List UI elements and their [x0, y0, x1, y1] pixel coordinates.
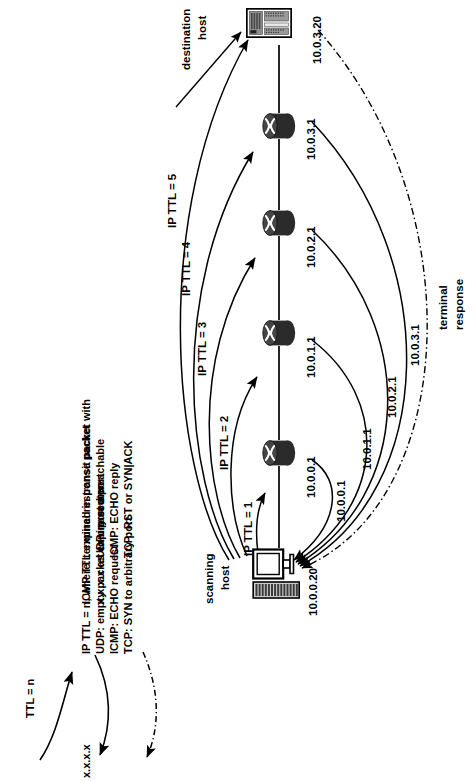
scanning-host-label-line1: scanning: [203, 554, 217, 604]
router-node-10-0-0-1[interactable]: [262, 440, 296, 470]
response-label-10-0-2-1: 10.0.2.1: [386, 376, 400, 418]
legend-terminal-line-2: UDP: port unreachable: [94, 439, 107, 558]
terminal-response-label-line2: response: [453, 279, 467, 330]
router-ip-label-10-0-1-1: 10.0.1.1: [305, 336, 319, 378]
destination-host-node[interactable]: [246, 8, 292, 42]
scanning-host-node[interactable]: [252, 546, 312, 604]
legend-terminal-line-4: TCP: RST or SYN|ACK: [122, 441, 135, 558]
router-icon: [262, 113, 296, 139]
router-ip-label-10-0-2-1: 10.0.2.1: [305, 226, 319, 268]
router-icon: [262, 320, 296, 346]
router-ip-label-10-0-3-1: 10.0.3.1: [305, 118, 319, 160]
router-node-10-0-3-1[interactable]: [262, 113, 296, 143]
terminal-response-label-line1: terminal: [437, 285, 451, 330]
probe-arrows: [180, 40, 265, 560]
response-label-10-0-0-1: 10.0.0.1: [335, 480, 349, 522]
response-label-10-0-3-1: 10.0.3.1: [409, 324, 423, 366]
destination-host-label-line1: destination: [180, 9, 194, 70]
legend-expiry-arrow-label: x.x.x.x: [80, 744, 93, 778]
probe-label-ttl-2: IP TTL = 2: [218, 416, 232, 470]
router-ip-label-10-0-0-1: 10.0.0.1: [305, 456, 319, 498]
router-icon: [262, 440, 296, 466]
diagram-canvas: 10.0.3.20 10.0.3.1 10.0.2.1 10.0.1.1 10.…: [0, 0, 476, 781]
legend-terminal-arrow: [143, 652, 156, 757]
router-node-10-0-1-1[interactable]: [262, 320, 296, 350]
connector-layer: [0, 0, 476, 781]
probe-label-ttl-1: IP TTL = 1: [242, 502, 256, 556]
legend-probe-arrow: [40, 672, 72, 760]
legend-expiry-arrow: [95, 655, 108, 755]
legend-probe-line-3: ICMP: ECHO request: [108, 545, 121, 654]
terminal-response-arrow: [302, 30, 427, 568]
router-icon: [262, 210, 296, 236]
probe-label-ttl-3: IP TTL = 3: [196, 322, 210, 376]
desktop-computer-icon: [252, 546, 312, 600]
destination-host-ip-label: 10.0.3.20: [311, 16, 325, 64]
legend-probe-arrow-label: TTL = n: [24, 679, 37, 718]
legend-terminal-line-3: ICMP: ECHO reply: [108, 463, 121, 558]
router-node-10-0-2-1[interactable]: [262, 210, 296, 240]
probe-label-ttl-4: IP TTL = 4: [180, 242, 194, 296]
scanning-host-ip-label: 10.0.0.20: [307, 568, 321, 616]
destination-host-label-line2: host: [196, 16, 210, 40]
probe-label-ttl-5: IP TTL = 5: [166, 174, 180, 228]
server-icon: [246, 8, 292, 38]
legend-terminal-line-1: terminal response packet: [80, 425, 93, 558]
probe-arrow-ttl1: [256, 493, 265, 553]
scanning-host-label-line2: host: [219, 566, 233, 590]
response-label-10-0-1-1: 10.0.1.1: [361, 428, 375, 470]
